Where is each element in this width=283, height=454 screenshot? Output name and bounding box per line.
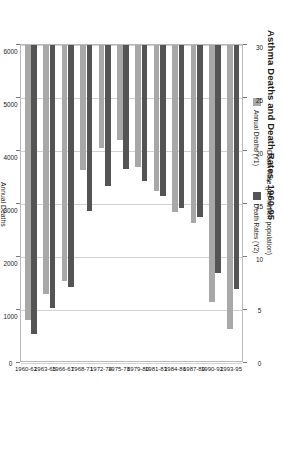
bar-annual-deaths[interactable] bbox=[154, 45, 160, 191]
bar-death-rate[interactable] bbox=[179, 45, 185, 208]
axis-tick-label: 2000 bbox=[3, 260, 17, 267]
bar-annual-deaths[interactable] bbox=[209, 45, 215, 302]
top-axis-title: Death Rate (per million population) bbox=[266, 150, 273, 255]
bar-death-rate[interactable] bbox=[234, 45, 240, 289]
axis-tick-label: 10 bbox=[256, 256, 263, 263]
axis-tick bbox=[16, 150, 20, 151]
legend-label-annual-deaths: Annual Deaths (Y1) bbox=[254, 110, 261, 166]
axis-tick-label: 5000 bbox=[3, 101, 17, 108]
bar-group bbox=[170, 45, 184, 361]
bar-death-rate[interactable] bbox=[31, 45, 37, 334]
bar-group bbox=[207, 45, 221, 361]
bottom-axis-title: Annual Deaths bbox=[0, 182, 7, 227]
bar-death-rate[interactable] bbox=[160, 45, 166, 196]
chart-canvas: Asthma Deaths and Death Rates, 1960-95 A… bbox=[0, 0, 283, 454]
plot-area bbox=[20, 44, 243, 362]
axis-tick bbox=[243, 309, 247, 310]
axis-tick-label: 30 bbox=[256, 44, 263, 51]
axis-tick-label: 20 bbox=[256, 150, 263, 157]
chart-legend: Annual Deaths (Y1) Death Rates (Y2) bbox=[253, 98, 261, 253]
chart-figure: Asthma Deaths and Death Rates, 1960-95 A… bbox=[0, 0, 283, 454]
bar-group bbox=[23, 45, 37, 361]
axis-tick bbox=[16, 44, 20, 45]
bar-annual-deaths[interactable] bbox=[227, 45, 233, 329]
bar-group bbox=[78, 45, 92, 361]
axis-tick-label: 0 bbox=[258, 360, 262, 367]
axis-tick-label: 15 bbox=[256, 203, 263, 210]
bar-death-rate[interactable] bbox=[68, 45, 74, 287]
axis-tick bbox=[16, 97, 20, 98]
bar-group bbox=[152, 45, 166, 361]
bar-group bbox=[189, 45, 203, 361]
bar-annual-deaths[interactable] bbox=[172, 45, 178, 212]
bar-annual-deaths[interactable] bbox=[117, 45, 123, 140]
bar-group bbox=[134, 45, 148, 361]
bar-annual-deaths[interactable] bbox=[80, 45, 86, 170]
bar-annual-deaths[interactable] bbox=[25, 45, 31, 320]
bar-group bbox=[97, 45, 111, 361]
bar-annual-deaths[interactable] bbox=[135, 45, 141, 167]
axis-tick bbox=[16, 309, 20, 310]
axis-tick bbox=[243, 203, 247, 204]
bar-annual-deaths[interactable] bbox=[62, 45, 68, 281]
axis-tick-label: 4000 bbox=[3, 154, 17, 161]
axis-tick bbox=[16, 362, 20, 363]
axis-tick-label: 0 bbox=[9, 360, 13, 367]
axis-tick-label: 5 bbox=[258, 307, 262, 314]
bar-group bbox=[60, 45, 74, 361]
gridline bbox=[21, 363, 242, 364]
bar-death-rate[interactable] bbox=[142, 45, 148, 181]
axis-tick bbox=[16, 256, 20, 257]
bar-annual-deaths[interactable] bbox=[191, 45, 197, 223]
bar-rows bbox=[21, 45, 242, 361]
bar-annual-deaths[interactable] bbox=[43, 45, 49, 294]
axis-tick bbox=[243, 44, 247, 45]
axis-tick-label: 25 bbox=[256, 97, 263, 104]
legend-swatch-icon-death-rates bbox=[253, 192, 261, 200]
bar-death-rate[interactable] bbox=[197, 45, 203, 217]
bar-death-rate[interactable] bbox=[123, 45, 129, 169]
category-label: 1993-95 bbox=[220, 366, 242, 372]
axis-tick bbox=[243, 150, 247, 151]
axis-tick bbox=[243, 256, 247, 257]
bar-death-rate[interactable] bbox=[50, 45, 56, 308]
legend-label-death-rates: Death Rates (Y2) bbox=[254, 204, 261, 253]
axis-tick-label: 6000 bbox=[3, 48, 17, 55]
legend-item-death-rates: Death Rates (Y2) bbox=[253, 192, 261, 253]
axis-tick bbox=[243, 97, 247, 98]
bar-annual-deaths[interactable] bbox=[99, 45, 105, 148]
axis-tick-label: 3000 bbox=[3, 207, 17, 214]
bar-death-rate[interactable] bbox=[215, 45, 221, 273]
axis-tick bbox=[243, 362, 247, 363]
bar-death-rate[interactable] bbox=[87, 45, 93, 211]
bar-death-rate[interactable] bbox=[105, 45, 111, 186]
axis-tick bbox=[16, 203, 20, 204]
bar-group bbox=[115, 45, 129, 361]
axis-tick-label: 1000 bbox=[3, 313, 17, 320]
bar-group bbox=[42, 45, 56, 361]
bar-group bbox=[226, 45, 240, 361]
